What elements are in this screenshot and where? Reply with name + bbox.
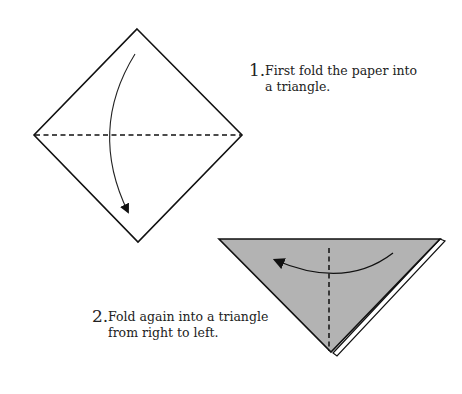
instruction-line: First fold the paper into xyxy=(265,63,417,79)
instruction-line: from right to left. xyxy=(108,325,268,341)
step-number: 2. xyxy=(92,306,108,326)
instruction-line: Fold again into a triangle xyxy=(108,309,268,325)
step1-diagram xyxy=(34,29,242,242)
step-number: 1. xyxy=(249,60,265,80)
instruction-line: a triangle. xyxy=(265,79,417,95)
